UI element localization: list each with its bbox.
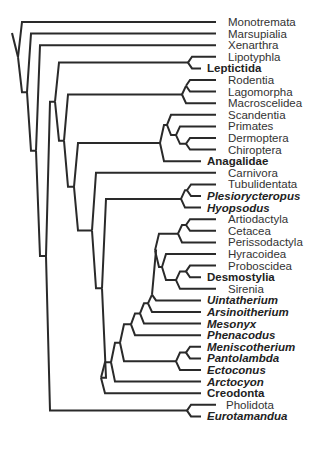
tree-branch bbox=[186, 138, 216, 144]
tree-branch bbox=[120, 343, 176, 361]
leaf-label: Artiodactyla bbox=[228, 213, 288, 225]
leaf-label: Lipotyphla bbox=[228, 51, 280, 63]
leaf-label: Arctocyon bbox=[207, 376, 264, 388]
tree-branch bbox=[186, 353, 201, 359]
tree-branch bbox=[188, 63, 201, 69]
leaf-label: Monotremata bbox=[228, 16, 296, 28]
leaf-label: Xenarthra bbox=[228, 39, 279, 51]
leaf-label: Macroscelidea bbox=[228, 97, 302, 109]
tree-branch bbox=[186, 225, 216, 231]
tree-branch bbox=[181, 199, 201, 208]
tree-branch bbox=[186, 271, 201, 277]
tree-branch bbox=[186, 144, 216, 150]
tree-branch bbox=[140, 313, 201, 323]
tree-branch bbox=[111, 343, 120, 362]
leaf-label: Marsupialia bbox=[228, 28, 287, 40]
tree-branch bbox=[176, 353, 186, 362]
leaf-label: Plesiorycteropus bbox=[207, 190, 300, 202]
tree-branch bbox=[152, 295, 201, 301]
tree-branch bbox=[36, 151, 46, 256]
tree-branch bbox=[120, 324, 131, 342]
leaf-label: Lagomorpha bbox=[228, 86, 293, 98]
leaf-label: Uintatherium bbox=[207, 294, 278, 306]
leaf-label: Meniscotherium bbox=[207, 341, 295, 353]
leaf-label: Anagalidae bbox=[207, 155, 268, 167]
leaf-label: Scandentia bbox=[228, 109, 286, 121]
leaf-label: Primates bbox=[228, 120, 273, 132]
leaf-label: Carnivora bbox=[228, 167, 278, 179]
leaf-label: Hyopsodus bbox=[207, 202, 270, 214]
tree-branch bbox=[187, 190, 201, 196]
tree-branch bbox=[167, 115, 216, 125]
leaf-label: Dermoptera bbox=[228, 132, 289, 144]
leaf-label: Creodonta bbox=[207, 387, 265, 399]
tree-branch bbox=[18, 57, 27, 92]
tree-branch bbox=[92, 173, 216, 231]
tree-branch bbox=[186, 80, 216, 86]
tree-branch bbox=[64, 95, 182, 141]
tree-branch bbox=[148, 295, 152, 304]
tree-branch bbox=[131, 313, 140, 324]
leaf-label: Pantolambda bbox=[207, 352, 279, 364]
tree-branch bbox=[178, 234, 216, 243]
leaf-label: Desmostylia bbox=[207, 271, 275, 283]
leaf-label: Chiroptera bbox=[228, 144, 282, 156]
tree-branch bbox=[92, 231, 102, 289]
tree-branch bbox=[160, 125, 167, 143]
leaf-label: Mesonyx bbox=[207, 318, 256, 330]
tree-branch bbox=[167, 125, 176, 135]
tree-branch bbox=[160, 143, 201, 161]
tree-branch bbox=[186, 86, 216, 92]
tree-branch bbox=[140, 303, 148, 313]
tree-branch bbox=[155, 234, 178, 251]
leaf-label: Perissodactyla bbox=[228, 236, 303, 248]
tree-branch bbox=[27, 92, 36, 151]
tree-branch bbox=[148, 303, 201, 312]
tree-branch bbox=[64, 141, 74, 187]
leaf-label: Arsinoitherium bbox=[207, 306, 289, 318]
tree-branch bbox=[102, 199, 181, 288]
tree-branch bbox=[162, 267, 176, 280]
leaf-label: Hyracoidea bbox=[228, 248, 286, 260]
tree-branch bbox=[74, 143, 160, 187]
tree-branch bbox=[182, 95, 216, 104]
tree-branch bbox=[176, 271, 186, 280]
leaf-label: Proboscidea bbox=[228, 260, 292, 272]
tree-branch bbox=[152, 250, 156, 294]
leaf-label: Rodentia bbox=[228, 74, 274, 86]
leaf-label: Tubulidentata bbox=[228, 178, 297, 190]
tree-branch bbox=[176, 361, 201, 370]
leaf-label: Leptictida bbox=[207, 62, 261, 74]
leaf-label: Phenacodus bbox=[207, 329, 275, 341]
tree-branch bbox=[55, 102, 64, 141]
tree-branch bbox=[155, 250, 162, 267]
tree-branch bbox=[46, 102, 55, 256]
tree-branch bbox=[176, 135, 186, 144]
tree-branch bbox=[55, 63, 188, 102]
tree-branch bbox=[101, 378, 201, 393]
tree-branch bbox=[131, 324, 201, 335]
tree-branch bbox=[176, 126, 216, 135]
tree-branch bbox=[186, 347, 201, 353]
leaf-label: Eurotamandua bbox=[207, 410, 288, 422]
tree-branch bbox=[74, 187, 92, 231]
tree-branch bbox=[111, 362, 201, 381]
tree-branch bbox=[187, 411, 201, 417]
leaf-label: Ectoconus bbox=[207, 364, 266, 376]
tree-branch bbox=[181, 190, 187, 199]
leaf-label: Cetacea bbox=[228, 225, 271, 237]
tree-branch bbox=[12, 33, 18, 57]
leaf-label: Pholidota bbox=[226, 399, 274, 411]
tree-branch bbox=[182, 86, 186, 95]
leaf-label: Sirenia bbox=[228, 283, 264, 295]
tree-branch bbox=[186, 219, 216, 225]
tree-branch bbox=[18, 22, 216, 57]
tree-branch bbox=[178, 225, 186, 234]
